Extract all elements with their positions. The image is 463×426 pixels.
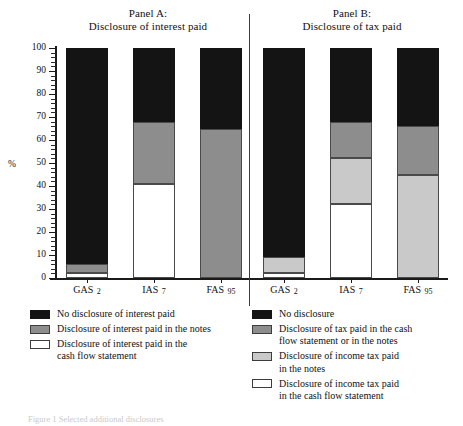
panel-b-title-line1: Panel B: — [258, 7, 446, 20]
y-axis-minor-tick — [51, 237, 56, 238]
y-axis-minor-tick — [51, 246, 56, 247]
y-axis-major-tick — [49, 255, 56, 256]
legend-swatch-black — [30, 310, 50, 319]
y-axis-tick-label: 40 — [20, 181, 46, 191]
bar-segment — [133, 184, 175, 278]
bar-segment — [66, 48, 108, 264]
legend-swatch-black — [252, 310, 272, 319]
legend-swatch-lgray — [252, 352, 272, 361]
y-axis-minor-tick — [51, 99, 56, 100]
y-axis-minor-tick — [51, 177, 56, 178]
legend-item: Disclosure of interest paid in thecash f… — [30, 338, 245, 363]
x-axis-tick — [351, 278, 352, 283]
stacked-bar — [330, 48, 372, 278]
y-axis-minor-tick — [51, 168, 56, 169]
legend-label-line: Disclosure of income tax paid — [279, 350, 462, 362]
legend-label: No disclosure of interest paid — [57, 308, 245, 320]
x-axis-tick — [221, 278, 222, 283]
x-axis-tick — [154, 278, 155, 283]
x-axis-tick-label: GAS 2 — [51, 284, 123, 296]
y-axis-minor-tick — [51, 273, 56, 274]
legend-label-line: Disclosure of tax paid in the cash — [279, 323, 462, 335]
bar-segment — [330, 158, 372, 204]
legend-item: Disclosure of income tax paidin the cash… — [252, 378, 462, 403]
bar-segment — [200, 129, 242, 279]
y-axis-major-tick — [49, 163, 56, 164]
y-axis-minor-tick — [51, 250, 56, 251]
y-axis-major-tick — [49, 71, 56, 72]
y-axis-major-tick — [49, 209, 56, 210]
y-axis-major-tick — [49, 278, 56, 279]
bar-segment — [330, 204, 372, 278]
bar-segment — [397, 175, 439, 279]
y-axis-tick-label: 30 — [20, 204, 46, 214]
panel-a-title-line2: Disclosure of interest paid — [58, 20, 238, 33]
y-axis-minor-tick — [51, 145, 56, 146]
panel-b-legend: No disclosureDisclosure of tax paid in t… — [252, 308, 462, 405]
legend-item: No disclosure of interest paid — [30, 308, 245, 320]
stacked-bar — [397, 48, 439, 278]
y-axis-minor-tick — [51, 103, 56, 104]
y-axis-tick-label: 20 — [20, 227, 46, 237]
figure-caption: Figure 1 Selected additional disclosures — [28, 414, 448, 424]
y-axis-minor-tick — [51, 135, 56, 136]
y-axis-minor-tick — [51, 76, 56, 77]
legend-label: Disclosure of income tax paidin the cash… — [279, 378, 462, 403]
x-axis-tick — [418, 278, 419, 283]
bar-segment — [133, 48, 175, 122]
legend-swatch-white — [30, 340, 50, 349]
legend-item: Disclosure of tax paid in the cashflow s… — [252, 323, 462, 348]
stacked-bar — [263, 48, 305, 278]
y-axis-minor-tick — [51, 126, 56, 127]
y-axis-minor-tick — [51, 53, 56, 54]
y-axis-minor-tick — [51, 269, 56, 270]
legend-label: Disclosure of interest paid in the notes — [57, 323, 245, 335]
y-axis-tick-label: 100 — [20, 43, 46, 53]
y-axis-tick-label: 80 — [20, 89, 46, 99]
y-axis-minor-tick — [51, 62, 56, 63]
y-axis-minor-tick — [51, 204, 56, 205]
y-axis-minor-tick — [51, 214, 56, 215]
y-axis-tick-label: 10 — [20, 250, 46, 260]
legend-label-line: Disclosure of income tax paid — [279, 378, 462, 390]
y-axis-minor-tick — [51, 112, 56, 113]
x-axis-tick-label: IAS 7 — [118, 284, 190, 296]
y-axis-minor-tick — [51, 158, 56, 159]
x-axis-tick — [284, 278, 285, 283]
y-axis-tick-label: 60 — [20, 135, 46, 145]
y-axis-minor-tick — [51, 89, 56, 90]
bar-segment — [397, 48, 439, 126]
y-axis-minor-tick — [51, 260, 56, 261]
bar-segment — [330, 48, 372, 122]
legend-label: Disclosure of tax paid in the cashflow s… — [279, 323, 462, 348]
y-axis-major-tick — [49, 232, 56, 233]
stacked-bar — [66, 48, 108, 278]
y-axis-minor-tick — [51, 227, 56, 228]
y-axis-tick-label: 0 — [20, 273, 46, 283]
legend-label-line: No disclosure of interest paid — [57, 308, 245, 320]
y-axis-minor-tick — [51, 218, 56, 219]
bar-segment — [66, 264, 108, 273]
legend-label-line: in the cash flow statement — [279, 390, 462, 402]
legend-label-line: Disclosure of interest paid in the — [57, 338, 245, 350]
x-axis-tick-label: IAS 7 — [315, 284, 387, 296]
y-axis-minor-tick — [51, 172, 56, 173]
legend-label: No disclosure — [279, 308, 462, 320]
legend-swatch-white — [252, 379, 272, 388]
legend-label-line: in the notes — [279, 363, 462, 375]
bar-segment — [133, 122, 175, 184]
y-axis-minor-tick — [51, 108, 56, 109]
y-axis-minor-tick — [51, 223, 56, 224]
legend-item: No disclosure — [252, 308, 462, 320]
y-axis-minor-tick — [51, 241, 56, 242]
x-axis-tick-label: FAS 95 — [185, 284, 257, 296]
legend-label-line: cash flow statement — [57, 350, 245, 362]
y-axis-minor-tick — [51, 66, 56, 67]
legend-swatch-dgray — [30, 325, 50, 334]
stacked-bar — [200, 48, 242, 278]
y-axis-tick-label: 90 — [20, 66, 46, 76]
x-axis-tick-label: GAS 2 — [248, 284, 320, 296]
legend-label: Disclosure of interest paid in thecash f… — [57, 338, 245, 363]
bar-segment — [263, 48, 305, 257]
y-axis-major-tick — [49, 140, 56, 141]
